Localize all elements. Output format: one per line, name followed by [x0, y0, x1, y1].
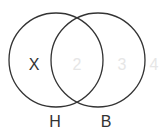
set-h-label: H	[49, 114, 61, 130]
set-b-circle	[51, 13, 145, 107]
region-right-only-label: 3	[118, 57, 127, 73]
venn-diagram	[0, 0, 165, 131]
region-left-only-label: X	[29, 57, 40, 73]
set-h-circle	[9, 13, 103, 107]
region-intersection-label: 2	[73, 57, 82, 73]
set-b-label: B	[101, 114, 112, 130]
region-outside-label: 4	[150, 57, 159, 73]
